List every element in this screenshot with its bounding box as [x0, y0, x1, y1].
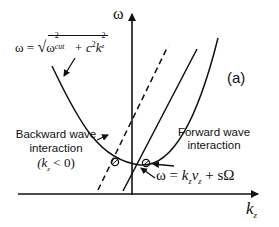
backward-condition-end: < 0) [50, 155, 75, 170]
dispersion-equation: ω = √ω2cut + c2k2z [15, 38, 110, 56]
kz-axis-label-main: k [246, 199, 254, 218]
sqrt-symbol: √ [37, 38, 46, 55]
forward-wave-annotation: Forward wave interaction [175, 126, 253, 152]
omega-axis-label: ω [113, 5, 124, 23]
diagram-canvas [0, 0, 279, 227]
omega-symbol: ω [46, 40, 55, 55]
beam-eq-prefix: ω = [156, 167, 182, 183]
backward-condition: (kz < 0) [14, 156, 98, 176]
dispersion-diagram: ω kz (a) ω = √ω2cut + c2k2z Backward wav… [0, 0, 279, 227]
equation-lhs: ω = [15, 40, 37, 55]
k-exponent: 2 [102, 31, 106, 40]
beam-equation-pointer-arrow [141, 168, 155, 178]
omega-cut-subscript: cut [55, 42, 65, 51]
backward-label-line1: Backward wave [14, 127, 98, 141]
forward-pointer-arrow [153, 164, 174, 166]
forward-label-line2: interaction [175, 139, 253, 152]
backward-intersection-marker [111, 158, 118, 165]
backward-condition-k: (k [37, 155, 47, 170]
beam-eq-k: k [182, 167, 189, 183]
backward-label-line2: interaction [14, 141, 98, 155]
kz-axis-label-sub: z [254, 210, 258, 220]
kz-axis-label: kz [246, 199, 257, 220]
backward-wave-annotation: Backward wave interaction (kz < 0) [14, 127, 98, 176]
plus-c-term: + c [71, 40, 92, 55]
forward-label-line1: Forward wave [175, 126, 253, 139]
beam-eq-suffix: + sΩ [201, 167, 234, 183]
dispersion-equation-pointer-arrow [64, 58, 75, 76]
panel-label: (a) [227, 69, 245, 86]
backward-pointer-arrow [97, 135, 108, 140]
omega-cut-exponent: 2 [55, 31, 59, 40]
beam-line-equation: ω = kzvz + sΩ [156, 167, 234, 186]
k-subscript: z [102, 42, 105, 50]
